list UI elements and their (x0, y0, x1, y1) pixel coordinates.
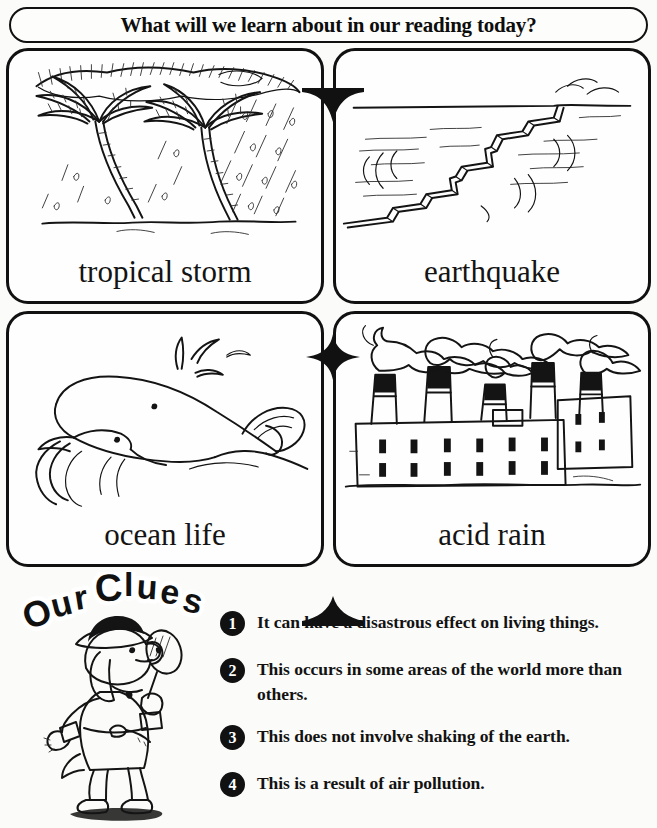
svg-text:u: u (136, 572, 159, 606)
clue-item: 2 This occurs in some areas of the world… (220, 657, 652, 707)
svg-text:r: r (71, 577, 90, 617)
choice-panel-earthquake[interactable]: earthquake (333, 48, 651, 304)
clues-section: O O u u r r C C (0, 572, 657, 828)
page-title: What will we learn about in our reading … (121, 13, 537, 38)
worksheet-title-banner: What will we learn about in our reading … (9, 7, 648, 43)
choice-panel-ocean-life[interactable]: ocean life (6, 311, 324, 567)
clue-item: 4 This is a result of air pollution. (220, 771, 652, 801)
choice-label: earthquake (336, 255, 648, 289)
choice-label: tropical storm (9, 255, 321, 289)
svg-text:l: l (124, 572, 133, 603)
clue-number-badge: 1 (220, 611, 245, 636)
worksheet-page: What will we learn about in our reading … (0, 0, 657, 828)
choice-label: acid rain (336, 518, 648, 552)
svg-text:s: s (179, 580, 207, 621)
svg-text:e: e (158, 572, 183, 612)
clue-text: This is a result of air pollution. (257, 771, 485, 796)
ground-fissure-icon (336, 55, 648, 247)
clue-text: It can have a disastrous effect on livin… (257, 610, 599, 635)
svg-text:C: C (93, 572, 124, 610)
choice-panel-tropical-storm[interactable]: tropical storm (6, 48, 324, 304)
choice-panel-acid-rain[interactable]: acid rain (333, 311, 651, 567)
detective-dog-icon: O O u u r r C C (14, 572, 214, 822)
choice-label: ocean life (9, 518, 321, 552)
palm-trees-storm-icon (9, 55, 321, 247)
factory-smokestacks-icon (336, 318, 648, 510)
clue-item: 1 It can have a disastrous effect on liv… (220, 610, 652, 640)
clues-list: 1 It can have a disastrous effect on liv… (220, 610, 652, 818)
picture-choice-grid: tropical storm (6, 48, 651, 568)
whale-icon (9, 318, 321, 510)
clue-item: 3 This does not involve shaking of the e… (220, 724, 652, 754)
clue-text: This occurs in some areas of the world m… (257, 657, 652, 707)
clue-number-badge: 4 (220, 772, 245, 797)
clue-text: This does not involve shaking of the ear… (257, 724, 570, 749)
clue-number-badge: 2 (220, 658, 245, 683)
clue-number-badge: 3 (220, 725, 245, 750)
